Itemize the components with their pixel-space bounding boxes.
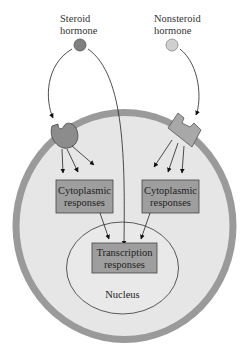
nonsteroid-label-line2: hormone — [154, 25, 192, 36]
transcription-line1: Transcription — [96, 247, 153, 258]
cyto-left-line2: responses — [64, 197, 105, 208]
nucleus-label: Nucleus — [105, 289, 139, 300]
transcription-line2: responses — [104, 259, 145, 270]
steroid-label-line2: hormone — [60, 25, 98, 36]
cyto-right-line2: responses — [150, 197, 191, 208]
steroid-label-line1: Steroid — [60, 13, 91, 24]
steroid-to-receptor-arrow — [48, 49, 72, 118]
nonsteroid-label-line1: Nonsteroid — [154, 13, 201, 24]
hormone-signaling-diagram: Steroid hormone Nonsteroid hormone Cytop… — [0, 0, 247, 350]
nonsteroid-hormone-icon — [166, 39, 178, 51]
cyto-left-line1: Cytoplasmic — [58, 185, 111, 196]
nonsteroid-to-receptor-arrow — [180, 49, 199, 115]
steroid-hormone-icon — [74, 39, 86, 51]
cyto-right-line1: Cytoplasmic — [144, 185, 197, 196]
